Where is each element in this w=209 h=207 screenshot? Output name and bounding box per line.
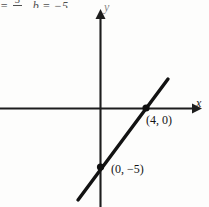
x-axis-label: x <box>196 96 201 111</box>
figure-coordinate-plane: = 5 4 , b = −5 x y (4, 0) (0, −5) <box>0 0 209 207</box>
y-axis-label: y <box>104 0 109 15</box>
plot-canvas <box>0 0 209 207</box>
plotted-line <box>78 79 168 200</box>
point-marker-x-intercept <box>142 104 149 111</box>
point-label-x-intercept: (4, 0) <box>146 113 172 128</box>
point-marker-y-intercept <box>97 163 104 170</box>
point-label-y-intercept: (0, −5) <box>111 162 144 177</box>
